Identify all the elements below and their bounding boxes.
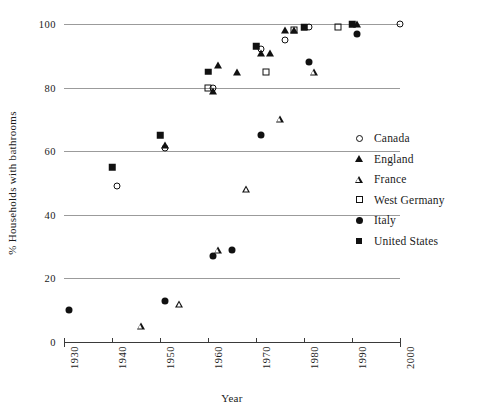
- data-point-west-germany-0: [205, 84, 212, 91]
- gridline-y-40: [64, 215, 400, 216]
- data-point-england-6: [281, 27, 289, 34]
- x-axis-right-cap: [400, 342, 401, 347]
- legend: CanadaEnglandFranceWest GermanyItalyUnit…: [352, 128, 492, 251]
- x-tick-label-1960: 1960: [213, 346, 224, 369]
- legend-item-united-states[interactable]: United States: [352, 231, 492, 252]
- data-point-italy-2: [209, 253, 216, 260]
- data-point-united-states-1: [157, 132, 164, 139]
- legend-label: West Germany: [374, 194, 445, 206]
- data-point-italy-5: [305, 59, 312, 66]
- data-point-france-3: [242, 186, 250, 193]
- legend-item-england[interactable]: England: [352, 149, 492, 170]
- x-tick-label-1990: 1990: [357, 346, 368, 369]
- data-point-united-states-2: [205, 68, 212, 75]
- x-axis-title: Year: [64, 392, 400, 404]
- data-point-west-germany-1: [262, 68, 269, 75]
- x-tick-label-1950: 1950: [165, 346, 176, 369]
- legend-item-france[interactable]: France: [352, 169, 492, 190]
- data-point-united-states-3: [253, 43, 260, 50]
- legend-item-italy[interactable]: Italy: [352, 210, 492, 231]
- legend-item-west-germany[interactable]: West Germany: [352, 190, 492, 211]
- x-tick-1950: [160, 338, 161, 342]
- x-tick-1940: [112, 338, 113, 342]
- legend-label: United States: [374, 235, 438, 247]
- data-point-italy-1: [161, 297, 168, 304]
- x-tick-label-1930: 1930: [69, 346, 80, 369]
- y-tick-label-60: 60: [45, 146, 57, 157]
- y-tick-label-40: 40: [45, 209, 57, 220]
- data-point-england-0: [161, 141, 169, 148]
- y-tick-label-80: 80: [45, 82, 57, 93]
- circle-filled-icon: [352, 217, 366, 224]
- y-tick-label-20: 20: [45, 273, 57, 284]
- data-point-canada-4: [281, 36, 288, 43]
- data-point-west-germany-3: [334, 24, 341, 31]
- data-point-england-2: [214, 62, 222, 69]
- legend-label: Italy: [374, 214, 396, 226]
- data-point-france-5: [310, 68, 318, 75]
- gridline-y-20: [64, 278, 400, 279]
- x-tick-2000: [400, 338, 401, 342]
- gridline-y-80: [64, 88, 400, 89]
- y-axis-title-text: % Households with bathrooms: [6, 111, 18, 254]
- data-point-france-0: [137, 323, 145, 330]
- x-tick-1990: [352, 338, 353, 342]
- data-point-england-3: [233, 68, 241, 75]
- triangle-open-icon: [352, 176, 366, 183]
- gridline-y-60: [64, 151, 400, 152]
- triangle-filled-icon: [352, 155, 366, 162]
- data-point-italy-6: [353, 30, 360, 37]
- x-tick-1960: [208, 338, 209, 342]
- square-filled-icon: [352, 238, 366, 245]
- data-point-italy-0: [65, 307, 72, 314]
- data-point-england-5: [266, 49, 274, 56]
- data-point-united-states-0: [109, 164, 116, 171]
- x-tick-label-1940: 1940: [117, 346, 128, 369]
- data-point-west-germany-2: [291, 27, 298, 34]
- x-axis-line: [64, 342, 400, 343]
- data-point-canada-6: [397, 21, 404, 28]
- legend-label: France: [374, 173, 407, 185]
- legend-label: Canada: [374, 132, 410, 144]
- legend-label: England: [374, 153, 414, 165]
- scatter-chart: 020406080100 % Households with bathrooms…: [0, 0, 492, 418]
- data-point-italy-3: [229, 246, 236, 253]
- x-tick-label-1980: 1980: [309, 346, 320, 369]
- x-axis-left-cap: [64, 342, 65, 347]
- data-point-england-4: [257, 49, 265, 56]
- x-tick-label-1970: 1970: [261, 346, 272, 369]
- x-tick-1930: [64, 338, 65, 342]
- data-point-france-4: [276, 116, 284, 123]
- circle-open-icon: [352, 135, 366, 142]
- legend-item-canada[interactable]: Canada: [352, 128, 492, 149]
- x-tick-label-2000: 2000: [405, 346, 416, 369]
- data-point-united-states-4: [301, 24, 308, 31]
- x-tick-1980: [304, 338, 305, 342]
- y-tick-label-0: 0: [50, 337, 56, 348]
- y-tick-label-100: 100: [39, 19, 56, 30]
- y-axis-title: % Households with bathrooms: [4, 24, 20, 342]
- data-point-canada-0: [113, 183, 120, 190]
- data-point-france-1: [175, 300, 183, 307]
- plot-area: [64, 24, 400, 342]
- data-point-united-states-5: [349, 21, 356, 28]
- x-tick-1970: [256, 338, 257, 342]
- data-point-italy-4: [257, 132, 264, 139]
- square-open-icon: [352, 196, 366, 203]
